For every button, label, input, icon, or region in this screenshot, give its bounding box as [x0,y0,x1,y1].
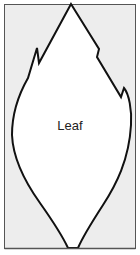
leaf-label: Leaf [45,118,95,133]
